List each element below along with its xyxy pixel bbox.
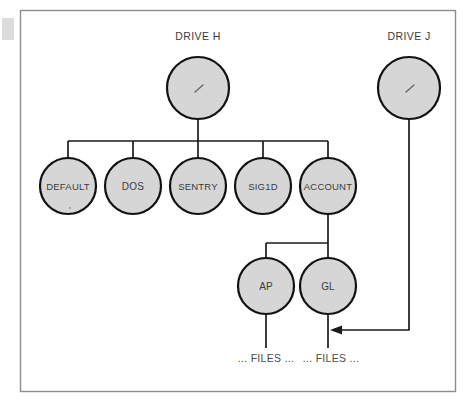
node-sentry[interactable]: SENTRY (170, 158, 226, 214)
drive-h-circle[interactable] (167, 57, 229, 119)
gl-label: GL (321, 281, 335, 292)
node-drive-j[interactable]: DRIVE J (378, 30, 440, 119)
files-label-ap: ... FILES ... (238, 352, 294, 364)
drive-j-label: DRIVE J (387, 30, 430, 42)
drive-h-label: DRIVE H (175, 30, 220, 42)
node-account[interactable]: ACCOUNT (300, 158, 356, 214)
sig1d-label: SIG1D (248, 181, 278, 192)
node-dos[interactable]: DOS (105, 158, 161, 214)
dos-label: DOS (122, 181, 144, 192)
scan-speck (69, 207, 71, 209)
directory-tree-diagram: DRIVE H DRIVE J DEFAULT DOS SENTRY (0, 0, 470, 410)
node-sig1d[interactable]: SIG1D (235, 158, 291, 214)
ap-label: AP (259, 281, 273, 292)
default-label: DEFAULT (46, 181, 89, 192)
sentry-label: SENTRY (178, 181, 218, 192)
node-default[interactable]: DEFAULT (40, 158, 96, 214)
drive-j-circle[interactable] (378, 57, 440, 119)
node-gl[interactable]: GL (300, 258, 356, 314)
account-label: ACCOUNT (304, 181, 352, 192)
arrowhead-drivej-to-gl (330, 326, 342, 335)
scan-artifact (2, 18, 14, 40)
node-ap[interactable]: AP (238, 258, 294, 314)
files-label-gl: ... FILES ... (303, 352, 359, 364)
diagram-canvas: DRIVE H DRIVE J DEFAULT DOS SENTRY (0, 0, 470, 410)
node-drive-h[interactable]: DRIVE H (167, 30, 229, 119)
